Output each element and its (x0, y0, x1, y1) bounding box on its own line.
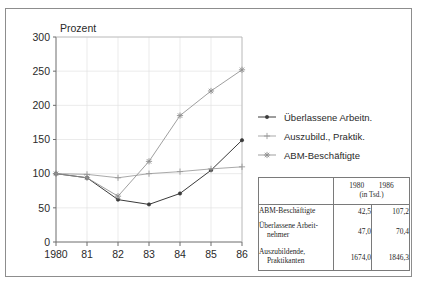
x-axis-tick-labels: 1980818283848586 (44, 248, 248, 260)
y-axis-title: Prozent (60, 22, 96, 34)
y-tick-label: 200 (32, 99, 50, 111)
table-header-years: 1980 1986 (in Tsd.) (333, 178, 409, 204)
table-header-unit: (in Tsd.) (334, 191, 409, 199)
table-header-1980: 1980 (349, 181, 364, 190)
row-abm-1986: 107,2 (371, 204, 409, 218)
summary-table: 1980 1986 (in Tsd.) ABM-Beschäftigte 42,… (259, 178, 409, 270)
table-header-1986: 1986 (379, 181, 394, 190)
row-ueberlassene-1980: 47,0 (333, 218, 371, 244)
y-axis-tick-labels: 050100150200250300 (32, 31, 50, 248)
row-label-ueberlassene: Überlassene Arbeit- nehmer (259, 218, 333, 244)
y-tick-label: 0 (44, 236, 50, 248)
legend-item-3[interactable]: ABM-Beschäftigte (258, 150, 360, 161)
table-row: ABM-Beschäftigte 42,5 107,2 (259, 204, 409, 218)
x-tick-label: 85 (205, 248, 217, 260)
y-tick-label: 50 (38, 202, 50, 214)
legend-item-2[interactable]: Auszubild., Praktik. (258, 131, 365, 142)
row-auszubildende-1980: 1674,0 (333, 244, 371, 270)
table-header-row: 1980 1986 (in Tsd.) (259, 178, 409, 204)
row-abm-1980: 42,5 (333, 204, 371, 218)
table-header-blank (259, 178, 333, 204)
row-label-line2: nehmer (259, 231, 333, 240)
x-tick-label: 83 (143, 248, 155, 260)
x-tick-label: 86 (236, 248, 248, 260)
x-tick-label: 82 (112, 248, 124, 260)
row-auszubildende-1986: 1846,3 (371, 244, 409, 270)
y-tick-label: 300 (32, 31, 50, 43)
legend-item-1[interactable]: Überlassene Arbeitn. (258, 112, 372, 123)
x-axis-ticks (56, 242, 242, 246)
table-header-year-pair: 1980 1986 (334, 182, 409, 191)
x-tick-label: 84 (174, 248, 186, 260)
x-tick-label: 1980 (44, 248, 68, 260)
legend-label-2: Auszubild., Praktik. (284, 131, 365, 142)
table-row: Auszubildende, Praktikanten 1674,0 1846,… (259, 244, 409, 270)
y-tick-label: 150 (32, 133, 50, 145)
y-tick-label: 100 (32, 167, 50, 179)
x-tick-label: 81 (81, 248, 93, 260)
row-label-line2: Praktikanten (259, 257, 333, 266)
chart-legend: Überlassene Arbeitn.Auszubild., Praktik.… (258, 112, 372, 161)
legend-label-3: ABM-Beschäftigte (284, 150, 360, 161)
row-ueberlassene-1986: 70,4 (371, 218, 409, 244)
row-label-auszubildende: Auszubildende, Praktikanten (259, 244, 333, 270)
table-row: Überlassene Arbeit- nehmer 47,0 70,4 (259, 218, 409, 244)
legend-label-1: Überlassene Arbeitn. (284, 112, 372, 123)
y-tick-label: 250 (32, 65, 50, 77)
row-label-abm: ABM-Beschäftigte (259, 204, 333, 218)
summary-data-table: 1980 1986 (in Tsd.) ABM-Beschäftigte 42,… (258, 177, 410, 271)
